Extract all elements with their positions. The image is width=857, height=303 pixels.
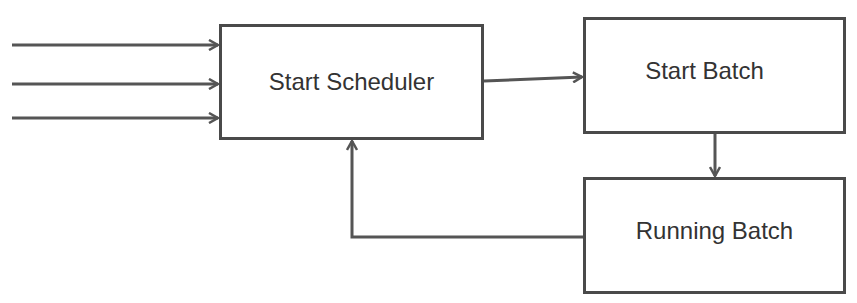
start-scheduler-label: Start Scheduler — [269, 68, 434, 96]
running-batch-label: Running Batch — [636, 217, 793, 245]
start-batch-label: Start Batch — [645, 57, 764, 85]
start-batch-node: Start Batch — [583, 17, 846, 134]
running-batch-node: Running Batch — [583, 177, 846, 294]
feedback-arrow — [352, 141, 584, 237]
scheduler-to-batch-arrow — [484, 77, 582, 81]
start-scheduler-node: Start Scheduler — [219, 24, 484, 140]
